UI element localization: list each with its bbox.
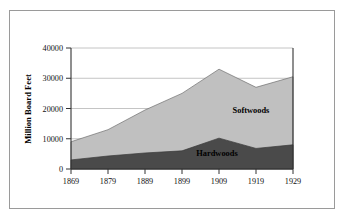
x-tick-label: 1919 — [248, 177, 264, 186]
series-label-softwoods: Softwoods — [233, 106, 271, 115]
series-label-hardwoods: Hardwoods — [196, 149, 238, 158]
y-tick-marks — [66, 48, 71, 169]
y-tick-labels: 40000 30000 20000 10000 0 — [43, 44, 63, 174]
y-tick-label: 10000 — [43, 135, 63, 144]
chart-figure: 40000 30000 20000 10000 0 1869 1879 1889… — [0, 0, 346, 220]
x-tick-label: 1909 — [211, 177, 227, 186]
y-axis-title: Million Board Feet — [23, 74, 33, 144]
x-tick-label: 1889 — [137, 177, 153, 186]
x-tick-labels: 1869 1879 1889 1899 1909 1919 1929 — [63, 177, 301, 186]
x-tick-label: 1899 — [174, 177, 190, 186]
area-chart: 40000 30000 20000 10000 0 1869 1879 1889… — [0, 0, 346, 220]
y-tick-label: 20000 — [43, 105, 63, 114]
x-tick-label: 1879 — [100, 177, 116, 186]
y-tick-label: 40000 — [43, 44, 63, 53]
x-tick-marks — [71, 169, 293, 174]
x-tick-label: 1869 — [63, 177, 79, 186]
y-tick-label: 0 — [59, 165, 63, 174]
y-tick-label: 30000 — [43, 74, 63, 83]
x-tick-label: 1929 — [285, 177, 301, 186]
